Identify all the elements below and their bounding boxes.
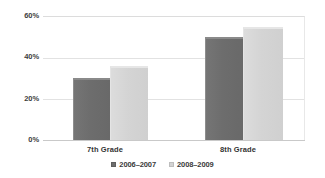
plot-area [43, 16, 305, 140]
x-axis-line [43, 140, 305, 141]
bar-7th-grade-2008-2009 [110, 66, 148, 140]
x-axis-label-7th-grade: 7th Grade [70, 145, 140, 154]
y-axis-tick-20: 20% [3, 95, 39, 103]
y-axis-tick-40: 40% [3, 53, 39, 61]
x-axis-label-8th-grade: 8th Grade [203, 145, 273, 154]
legend-label-2008-2009: 2008–2009 [177, 160, 214, 169]
bar-7th-grade-2006-2007 [73, 78, 110, 140]
bar-8th-grade-2008-2009 [243, 27, 283, 140]
bar-chart: 60% 40% 20% 0% 7th Grade 8th Grade 2006–… [0, 0, 325, 178]
legend-item-2008-2009[interactable]: 2008–2009 [169, 160, 214, 169]
legend-label-2006-2007: 2006–2007 [119, 160, 156, 169]
y-axis-tick-60: 60% [3, 12, 39, 20]
legend-item-2006-2007[interactable]: 2006–2007 [111, 160, 156, 169]
bar-8th-grade-2006-2007 [205, 37, 243, 140]
chart-legend: 2006–2007 2008–2009 [0, 160, 325, 169]
light-swatch-icon [169, 162, 174, 167]
y-axis-tick-0: 0% [3, 136, 39, 144]
dark-swatch-icon [111, 162, 116, 167]
